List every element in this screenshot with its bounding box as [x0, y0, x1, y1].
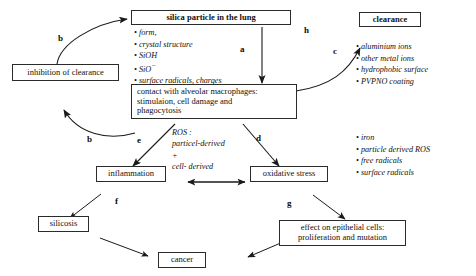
ros-line4: cell- derived: [172, 161, 225, 172]
node-oxidative-label: oxidative stress: [255, 169, 323, 179]
node-epithelial-effect[interactable]: effect on epithelial cells: proliferatio…: [279, 220, 406, 246]
list-item: • SiO−: [134, 62, 222, 75]
ros-line3: +: [172, 150, 225, 161]
list-item: • SiOH: [134, 50, 222, 62]
arrow-b-inhibition-to-silica: [57, 19, 127, 64]
diagram-canvas: silica particle in the lung • form, • cr…: [0, 0, 476, 276]
edge-label-d: d: [256, 133, 261, 143]
edge-label-b-top: b: [58, 33, 63, 43]
superscript-minus: −: [151, 62, 156, 70]
list-item: • other metal ions: [356, 53, 428, 65]
list-item: • aluminium ions: [356, 41, 428, 53]
arrow-e-macrophages-to-inflammation: [133, 124, 175, 166]
node-cancer[interactable]: cancer: [158, 252, 206, 268]
node-macrophage-line3: phagocytosis: [137, 106, 292, 116]
oxidative-factors-list: • iron • particle derived ROS • free rad…: [356, 132, 430, 179]
list-item: • iron: [356, 132, 430, 144]
node-silicosis[interactable]: silicosis: [38, 216, 89, 232]
list-item: • surface radicals: [356, 167, 430, 179]
edge-label-g: g: [287, 198, 292, 208]
edge-label-c: c: [333, 46, 337, 56]
edge-label-b-bottom: b: [87, 134, 92, 144]
node-cancer-label: cancer: [163, 255, 201, 265]
arrow-f-inflammation-to-silicosis: [70, 194, 101, 218]
edge-label-a: a: [240, 44, 245, 54]
arrow-b-macrophages-to-inhibition: [64, 110, 135, 136]
node-inflammation-label: inflammation: [101, 169, 161, 179]
arrow-c-macrophages-to-clearance: [296, 48, 360, 91]
particle-properties-list: • form, • crystal structure • SiOH • SiO…: [134, 27, 222, 87]
node-silica-particle[interactable]: silica particle in the lung: [131, 10, 291, 25]
arrow-d-macrophages-to-oxidative: [243, 124, 279, 166]
arrow-silicosis-to-cancer: [100, 238, 148, 256]
node-inhibition-label: inhibition of clearance: [17, 68, 114, 78]
node-silica-particle-label: silica particle in the lung: [136, 13, 286, 23]
node-silicosis-label: silicosis: [43, 219, 84, 229]
arrow-g-oxidative-to-epithelial: [313, 195, 345, 219]
node-clearance[interactable]: clearance: [359, 12, 421, 27]
ros-line2: particel-derived: [172, 138, 225, 149]
ros-line1: ROS :: [172, 127, 225, 138]
list-item: • form,: [134, 27, 222, 39]
node-inhibition-of-clearance[interactable]: inhibition of clearance: [12, 64, 119, 81]
list-item: • free radicals: [356, 155, 430, 167]
clearance-factors-list: • aluminium ions • other metal ions • hy…: [356, 41, 428, 88]
node-clearance-label: clearance: [364, 15, 416, 25]
edge-label-e: e: [137, 135, 141, 145]
list-item: • particle derived ROS: [356, 144, 430, 156]
node-macrophage-contact[interactable]: contact with alveolar macrophages: stimu…: [131, 84, 297, 119]
node-epithelial-line2: proliferation and mutation: [284, 233, 401, 243]
node-inflammation[interactable]: inflammation: [96, 166, 166, 182]
list-item: • PVPNO coating: [356, 76, 428, 88]
ros-annotation: ROS : particel-derived + cell- derived: [172, 127, 225, 172]
list-item: • crystal structure: [134, 39, 222, 51]
edge-label-f: f: [115, 196, 118, 206]
node-oxidative-stress[interactable]: oxidative stress: [250, 166, 328, 182]
edge-label-h: h: [304, 25, 309, 35]
list-item: • hydrophobic surface: [356, 64, 428, 76]
